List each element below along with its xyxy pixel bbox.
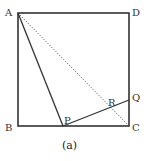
segment-ap — [18, 13, 63, 126]
label-q: Q — [132, 92, 140, 103]
label-r: R — [108, 97, 116, 108]
label-b: B — [5, 122, 12, 133]
geometry-diagram: A D B C Q R P (a) — [0, 0, 149, 161]
segment-pq — [63, 100, 129, 126]
diagonal-ac — [18, 13, 129, 126]
label-c: C — [132, 122, 140, 133]
label-d: D — [132, 7, 140, 18]
label-a: A — [4, 7, 13, 18]
label-p: P — [64, 115, 71, 126]
figure-caption: (a) — [62, 139, 77, 152]
